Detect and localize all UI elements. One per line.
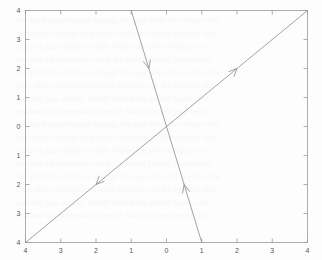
y-tick-label: 0 [17,123,21,130]
y-tick-label: 1 [17,152,21,159]
y-tick-label: 1 [17,94,21,101]
x-tick-label: 3 [59,247,63,254]
line-falling-line [131,11,202,243]
series-falling-line [131,11,202,243]
x-tick-label: 0 [165,247,169,254]
x-tick-label: 1 [200,247,204,254]
arrow-barb [183,185,185,194]
x-tick-label: 4 [24,247,28,254]
axes-group: 432101234432101234 [17,7,310,253]
y-tick-label: 4 [17,7,21,14]
arrow-barb [149,60,151,69]
y-tick-label: 2 [17,65,21,72]
y-tick-label: 3 [17,36,21,43]
data-series-group [26,11,308,243]
figure-container: the text beneath shows through the page … [0,0,322,260]
tick-labels-group: 432101234432101234 [17,7,310,253]
plot-svg: 432101234432101234 [0,0,322,260]
y-tick-label: 4 [17,239,21,246]
x-tick-label: 3 [270,247,274,254]
y-tick-label: 2 [17,181,21,188]
x-tick-label: 1 [129,247,133,254]
x-tick-label: 2 [235,247,239,254]
x-tick-label: 4 [306,247,310,254]
y-tick-label: 3 [17,210,21,217]
x-tick-label: 2 [94,247,98,254]
